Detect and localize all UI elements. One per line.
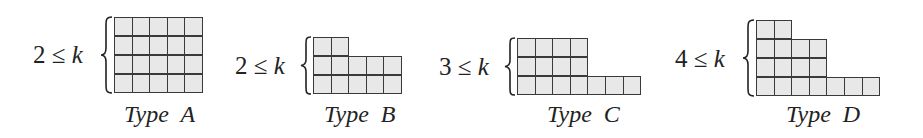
young-diagram-d [756, 20, 879, 96]
left-brace-icon [742, 19, 756, 97]
panel-type-d: 4 ≤ k Type D [0, 0, 923, 138]
condition-variable: k [714, 45, 725, 72]
condition-label-d: 4 ≤ k [675, 46, 725, 71]
type-label-d: Type D [786, 102, 860, 126]
diagram-row [756, 58, 879, 77]
condition-lower-bound: 4 [675, 45, 688, 72]
condition-relation: ≤ [694, 45, 708, 72]
diagram-row [756, 39, 879, 58]
diagram-row [756, 20, 879, 39]
diagram-row [756, 77, 879, 96]
